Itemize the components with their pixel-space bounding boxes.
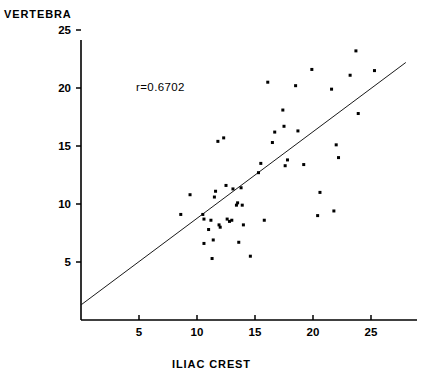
y-tick-label: 10 <box>58 198 71 210</box>
data-point <box>202 242 205 245</box>
data-point <box>257 171 260 174</box>
x-tick-label: 20 <box>307 326 320 338</box>
data-point <box>310 68 313 71</box>
data-point <box>332 209 335 212</box>
data-point <box>212 238 215 241</box>
data-point <box>225 184 228 187</box>
x-tick-label: 10 <box>191 326 204 338</box>
data-point <box>318 191 321 194</box>
regression-line <box>81 62 406 304</box>
data-point <box>209 219 212 222</box>
data-point <box>330 88 333 91</box>
y-tick-label: 20 <box>58 82 71 94</box>
data-points <box>179 49 376 260</box>
data-point <box>249 255 252 258</box>
x-tick-label: 25 <box>365 326 378 338</box>
y-axis-ticks: 510152025 <box>58 24 81 268</box>
data-point <box>316 214 319 217</box>
data-point <box>201 213 204 216</box>
data-point <box>337 156 340 159</box>
data-point <box>286 158 289 161</box>
data-point <box>240 186 243 189</box>
data-point <box>294 84 297 87</box>
data-point <box>237 241 240 244</box>
data-point <box>349 74 352 77</box>
data-point <box>281 109 284 112</box>
x-axis-ticks: 510152025 <box>136 315 378 338</box>
data-point <box>236 201 239 204</box>
data-point <box>271 141 274 144</box>
y-tick-label: 5 <box>65 256 72 268</box>
data-point <box>179 213 182 216</box>
y-tick-label: 15 <box>58 140 71 152</box>
data-point <box>273 131 276 134</box>
data-point <box>213 196 216 199</box>
data-point <box>296 129 299 132</box>
x-tick-label: 5 <box>136 326 143 338</box>
y-tick-label: 25 <box>58 24 71 36</box>
scatter-plot-figure: VERTEBRA r=0.6702 510152025 510152025 IL… <box>0 0 423 383</box>
data-point <box>214 190 217 193</box>
data-point <box>202 218 205 221</box>
data-point <box>189 193 192 196</box>
x-axis-title: ILIAC CREST <box>0 358 423 370</box>
data-point <box>259 162 262 165</box>
data-point <box>263 219 266 222</box>
data-point <box>211 257 214 260</box>
data-point <box>231 187 234 190</box>
data-point <box>354 49 357 52</box>
data-point <box>284 164 287 167</box>
data-point <box>283 125 286 128</box>
data-point <box>373 69 376 72</box>
data-point <box>302 163 305 166</box>
data-point <box>222 136 225 139</box>
data-point <box>219 226 222 229</box>
data-point <box>357 112 360 115</box>
data-point <box>230 219 233 222</box>
data-point <box>335 143 338 146</box>
data-point <box>207 228 210 231</box>
data-point <box>242 223 245 226</box>
data-point <box>241 204 244 207</box>
data-point <box>216 140 219 143</box>
x-tick-label: 15 <box>249 326 262 338</box>
data-point <box>266 81 269 84</box>
plot-canvas: 510152025 510152025 <box>0 0 423 383</box>
regression-line-path <box>81 62 406 304</box>
